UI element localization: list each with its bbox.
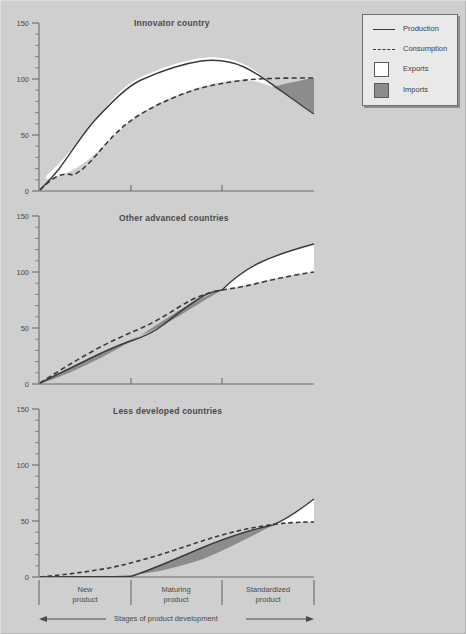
panel1-exports-area	[46, 57, 273, 179]
stage-maturing-line2: product	[163, 595, 188, 604]
stage-maturing-line1: Maturing	[161, 585, 190, 594]
legend-label-consumption: Consumption	[403, 44, 447, 53]
stage-standardized-line1: Standardized	[246, 585, 290, 594]
panel3-consumption-line	[40, 522, 314, 577]
panel-title-less-developed: Less developed countries	[113, 406, 222, 416]
panel-title-other-advanced: Other advanced countries	[119, 213, 229, 223]
panel3-ytick-0: 0	[7, 573, 29, 582]
panel3-ytick-100: 100	[7, 461, 29, 470]
consumption-dashed-line-icon	[373, 49, 395, 50]
legend-item-consumption: Consumption	[370, 41, 458, 59]
stage-new-line1: New	[77, 585, 92, 594]
panel1-ytick-100: 100	[7, 75, 29, 84]
panel2-ytick-0: 0	[7, 380, 29, 389]
chart-figure: Innovator country Other advanced countri…	[0, 0, 466, 634]
panel2-ytick-50: 50	[7, 324, 29, 333]
panel3-y-major-ticks	[32, 409, 39, 577]
panel3-imports-area	[41, 525, 273, 577]
panel3-ytick-50: 50	[7, 517, 29, 526]
panel2-y-major-ticks	[32, 216, 39, 384]
legend-item-imports: Imports	[370, 82, 458, 100]
panel1-x-stage-ticks	[131, 185, 222, 191]
x-axis-caption: Stages of product development	[111, 614, 221, 623]
production-line-icon	[373, 29, 395, 30]
panel2-x-stage-ticks	[131, 378, 222, 384]
legend-label-imports: Imports	[403, 85, 428, 94]
legend-item-exports: Exports	[370, 61, 458, 79]
panel-innovator-country	[32, 23, 314, 191]
panel3-y-minor-ticks	[35, 420, 39, 566]
stage-standardized-line2: product	[255, 595, 280, 604]
panel2-y-minor-ticks	[35, 227, 39, 373]
stage-label-new-product: New product	[45, 585, 125, 605]
legend-label-exports: Exports	[403, 64, 428, 73]
stage-label-maturing-product: Maturing product	[136, 585, 216, 605]
stage-new-line2: product	[72, 595, 97, 604]
panel1-imports-area	[273, 78, 314, 113]
legend-label-production: Production	[403, 24, 439, 33]
panel3-ytick-150: 150	[7, 405, 29, 414]
panel1-ytick-0: 0	[7, 187, 29, 196]
chart-legend: Production Consumption Exports Imports	[362, 14, 458, 106]
panel-title-innovator: Innovator country	[134, 18, 210, 28]
panel-other-advanced-countries	[32, 216, 314, 384]
panel2-ytick-150: 150	[7, 212, 29, 221]
imports-swatch-icon	[374, 83, 389, 98]
legend-item-production: Production	[370, 21, 458, 39]
panel1-y-major-ticks	[32, 23, 39, 191]
exports-swatch-icon	[374, 62, 389, 77]
panel1-ytick-150: 150	[7, 19, 29, 28]
panel2-exports-area	[222, 244, 314, 290]
panel2-ytick-100: 100	[7, 268, 29, 277]
panel1-ytick-50: 50	[7, 131, 29, 140]
panel1-y-minor-ticks	[35, 34, 39, 180]
stage-label-standardized-product: Standardized product	[228, 585, 308, 605]
